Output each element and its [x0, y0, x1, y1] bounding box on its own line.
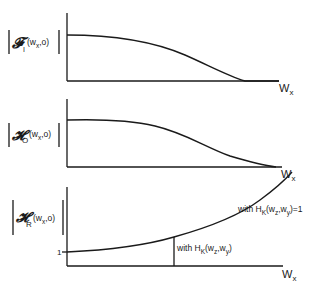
annotation-lower: with HK(wz,wy) [176, 243, 232, 256]
ylabel-sub: O [22, 136, 28, 145]
xlabel: Wx [282, 268, 296, 283]
xlabel: Wx [279, 82, 293, 97]
curve-object-spectrum [67, 120, 276, 167]
ylabel-sub: R [26, 220, 32, 229]
tick-label-one: 1 [57, 248, 62, 257]
panel-transfer-function: 𝓕 I (wx,o) Wx [9, 13, 293, 97]
diagram-canvas: 𝓕 I (wx,o) Wx 𝓗 O (wx,o) Wx 1 𝓗 R (wx,o)… [0, 0, 332, 284]
panel-object-spectrum: 𝓗 O (wx,o) Wx [9, 99, 295, 183]
ylabel-args: (wx,o) [29, 129, 51, 141]
panel-restoration-filter: 1 𝓗 R (wx,o) Wx with HK(wz,wy)=1 with HK… [13, 172, 303, 283]
ylabel-sub: I [23, 46, 25, 53]
ylabel-args: (wx,o) [33, 213, 55, 225]
ylabel-args: (wx,o) [27, 37, 49, 49]
annotation-upper: with HK(wz,wy)=1 [237, 204, 303, 217]
ylabel-symbol: 𝓗 [15, 209, 35, 225]
curve-transfer-function [67, 35, 279, 81]
